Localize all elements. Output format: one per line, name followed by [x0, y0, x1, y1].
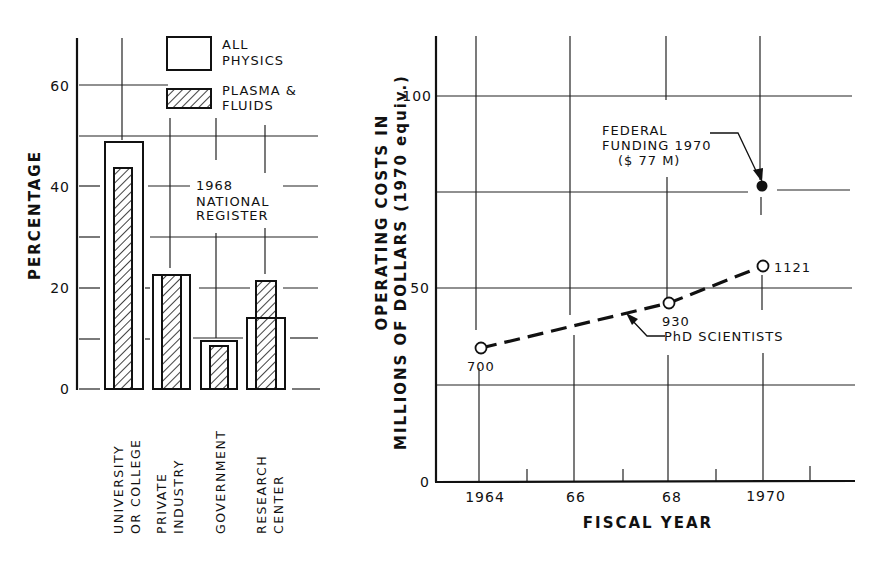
legend-swatch-plasma-fluids [167, 89, 211, 108]
legend-label-plasma-fluids: PLASMA & [222, 83, 297, 98]
line-chart-gridlines [436, 36, 855, 481]
federal-funding-annotation: FEDERAL FUNDING 1970 ($ 77 M) [602, 123, 712, 168]
data-point-1970 [758, 261, 769, 272]
line-chart: 700 930 1121 FEDERAL FUNDING 1970 ($ 77 … [373, 36, 855, 532]
bar-plasma-fluids [256, 281, 276, 389]
bar-plasma-fluids [114, 168, 132, 389]
bar-group-university [105, 142, 143, 389]
bar-chart-category-labels: UNIVERSITY OR COLLEGE PRIVATE INDUSTRY G… [111, 430, 286, 534]
svg-text:REGISTER: REGISTER [196, 208, 269, 223]
line-chart-y-axis-title: OPERATING COSTS IN [373, 114, 391, 331]
svg-text:FEDERAL: FEDERAL [602, 123, 668, 138]
data-point-1968 [664, 298, 675, 309]
y-tick-label: 0 [420, 474, 430, 490]
point-label-1968: 930 [662, 314, 690, 329]
point-label-1964: 700 [467, 359, 495, 374]
bar-plasma-fluids [162, 275, 181, 389]
legend-label-all-physics: PHYSICS [222, 53, 284, 68]
bar-plasma-fluids [210, 346, 228, 389]
bar-chart-legend: ALL PHYSICS PLASMA & FLUIDS [167, 37, 297, 113]
phd-scientists-arrow [626, 313, 665, 336]
x-tick-label: 66 [566, 489, 586, 505]
line-chart-x-axis-title: FISCAL YEAR [583, 514, 713, 532]
category-label-university: UNIVERSITY [111, 445, 126, 534]
y-tick-label: 60 [50, 78, 70, 94]
bar-chart-annotation: 1968 NATIONAL REGISTER [196, 178, 269, 223]
svg-text:1968: 1968 [196, 178, 233, 193]
legend-label-all-physics: ALL [222, 37, 248, 52]
legend-label-plasma-fluids: FLUIDS [222, 98, 274, 113]
federal-funding-arrow [710, 133, 763, 182]
svg-text:FUNDING 1970: FUNDING 1970 [602, 138, 712, 153]
bar-group-research-center [247, 281, 285, 389]
category-label-private-industry: INDUSTRY [171, 459, 186, 534]
bar-group-government [201, 341, 237, 389]
x-tick-label: 1970 [746, 488, 786, 504]
category-label-research-center: RESEARCH [254, 455, 269, 534]
category-label-research-center: CENTER [271, 475, 286, 534]
phd-scientists-annotation: PhD SCIENTISTS [664, 329, 784, 344]
data-point-federal-funding [757, 181, 768, 192]
svg-text:($ 77 M): ($ 77 M) [618, 153, 680, 168]
x-tick-label: 1964 [465, 489, 505, 505]
y-tick-label: 50 [410, 280, 430, 296]
svg-text:NATIONAL: NATIONAL [196, 194, 269, 209]
bar-group-private-industry [153, 275, 190, 389]
category-label-government: GOVERNMENT [213, 430, 228, 534]
figure: 0 20 40 60 PERCENTAGE ALL PHYSICS PLASMA… [0, 0, 877, 567]
line-chart-y-axis-title: MILLIONS OF DOLLARS (1970 equiv.) [392, 74, 410, 450]
data-point-1964 [476, 343, 487, 354]
category-label-university: OR COLLEGE [128, 439, 143, 534]
category-label-private-industry: PRIVATE [154, 473, 169, 534]
y-tick-label: 20 [50, 280, 70, 296]
x-tick-label: 68 [662, 489, 682, 505]
bar-chart: 0 20 40 60 PERCENTAGE ALL PHYSICS PLASMA… [26, 37, 320, 534]
legend-swatch-all-physics [167, 37, 211, 70]
bar-chart-y-axis-title: PERCENTAGE [26, 150, 44, 280]
line-chart-x-axis [435, 481, 855, 482]
y-tick-label: 0 [60, 381, 70, 397]
point-label-1970: 1121 [774, 260, 811, 275]
y-tick-label: 40 [50, 179, 70, 195]
